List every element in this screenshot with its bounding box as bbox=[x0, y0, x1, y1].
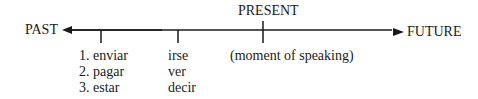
arrow-right-icon bbox=[393, 28, 404, 36]
list-item: decir bbox=[168, 80, 196, 96]
present-note: (moment of speaking) bbox=[230, 48, 354, 64]
arrow-left-icon bbox=[62, 26, 72, 34]
list-item: 2. pagar bbox=[79, 64, 128, 80]
list-item: 3. estar bbox=[79, 80, 128, 96]
list-item: ver bbox=[168, 64, 196, 80]
verb-list: irse ver decir bbox=[168, 48, 196, 96]
list-item: 1. enviar bbox=[79, 48, 128, 64]
list-item: irse bbox=[168, 48, 196, 64]
present-label: PRESENT bbox=[238, 3, 299, 19]
past-label: PAST bbox=[25, 22, 58, 38]
future-label: FUTURE bbox=[407, 24, 461, 40]
verb-list-numbered: 1. enviar 2. pagar 3. estar bbox=[79, 48, 128, 96]
